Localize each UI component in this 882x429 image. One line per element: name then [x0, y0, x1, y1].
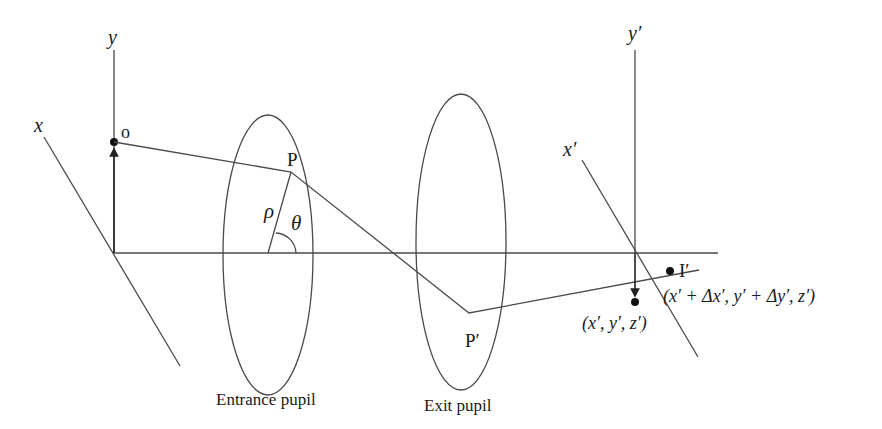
- image-point-label: I′: [679, 260, 689, 281]
- image-x-axis-label: x′: [562, 138, 577, 160]
- rho-label: ρ: [263, 199, 274, 223]
- point-p-prime-label: P′: [465, 330, 480, 351]
- entrance-pupil-ellipse: [223, 115, 313, 395]
- object-point-label: o: [121, 122, 130, 142]
- image-point-dot: [666, 267, 674, 275]
- optical-system-diagram: y x o P ρ θ Entrance pupil P′ Exit pupil…: [0, 0, 882, 429]
- theta-angle-arc: [276, 233, 296, 253]
- ideal-image-dot: [631, 298, 639, 306]
- theta-label: θ: [291, 211, 301, 235]
- exit-pupil-ellipse: [416, 94, 506, 390]
- image-point-coords: (x′ + Δx′, y′ + Δy′, z′): [663, 286, 815, 307]
- object-x-axis: [44, 137, 180, 366]
- exit-pupil-label: Exit pupil: [424, 396, 492, 415]
- image-y-axis-label: y′: [626, 22, 642, 45]
- object-y-axis-label: y: [106, 26, 117, 49]
- ray-path: [114, 142, 699, 313]
- entrance-pupil-label: Entrance pupil: [216, 390, 316, 409]
- ideal-image-coords: (x′, y′, z′): [582, 313, 647, 334]
- object-x-axis-label: x: [33, 114, 43, 136]
- point-p-label: P: [287, 149, 298, 170]
